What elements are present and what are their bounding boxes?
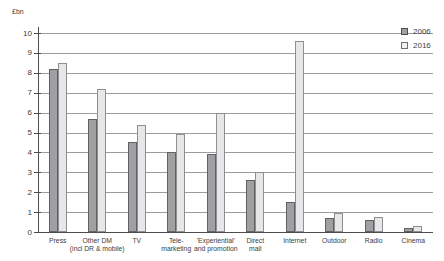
legend-row-2006: 2006 bbox=[401, 24, 431, 38]
bar-internet-2016 bbox=[295, 41, 304, 232]
bar-radio-2006 bbox=[365, 220, 374, 232]
legend-row-2016: 2016 bbox=[401, 38, 431, 52]
bar-other-dm-2016 bbox=[97, 89, 106, 232]
y-tick-label-6: 6 bbox=[12, 108, 32, 117]
gridline-9 bbox=[38, 53, 433, 54]
x-axis-line bbox=[38, 232, 433, 233]
bar-tv-2016 bbox=[137, 125, 146, 232]
legend: 2006 2016 bbox=[401, 24, 431, 52]
bar-direct-2006 bbox=[246, 180, 255, 232]
y-tick-label-10: 10 bbox=[12, 29, 32, 38]
y-tick-label-0: 0 bbox=[12, 228, 32, 237]
bar-tele-2006 bbox=[167, 152, 176, 232]
bar-outdoor-2016 bbox=[334, 213, 343, 232]
bar-outdoor-2006 bbox=[325, 218, 334, 232]
y-tick-label-7: 7 bbox=[12, 88, 32, 97]
bar-other-dm-2006 bbox=[88, 119, 97, 232]
bar-radio-2016 bbox=[374, 217, 383, 232]
y-tick-label-2: 2 bbox=[12, 188, 32, 197]
legend-label-2006: 2006 bbox=[413, 27, 431, 36]
legend-swatch-2006 bbox=[401, 28, 408, 35]
bar-tv-2006 bbox=[128, 142, 137, 232]
y-axis-unit-label: £bn bbox=[12, 8, 24, 15]
gridline-10 bbox=[38, 33, 433, 34]
gridline-8 bbox=[38, 73, 433, 74]
bar-experiential-2016 bbox=[216, 113, 225, 232]
y-tick-label-3: 3 bbox=[12, 168, 32, 177]
bar-press-2006 bbox=[49, 69, 58, 232]
legend-swatch-2016 bbox=[401, 42, 408, 49]
y-tick-label-5: 5 bbox=[12, 128, 32, 137]
y-tick-label-9: 9 bbox=[12, 48, 32, 57]
bar-tele-2016 bbox=[176, 134, 185, 232]
bar-direct-2016 bbox=[255, 172, 264, 232]
y-tick-label-8: 8 bbox=[12, 68, 32, 77]
legend-label-2016: 2016 bbox=[413, 41, 431, 50]
bar-internet-2006 bbox=[286, 202, 295, 232]
y-tick-label-4: 4 bbox=[12, 148, 32, 157]
y-tick-label-1: 1 bbox=[12, 208, 32, 217]
bar-chart: £bn 012345678910 PressOther DM(incl DR &… bbox=[0, 0, 444, 261]
bar-press-2016 bbox=[58, 63, 67, 232]
bar-experiential-2006 bbox=[207, 154, 216, 232]
x-axis-label-cinema: Cinema bbox=[373, 237, 444, 245]
y-axis-line bbox=[38, 27, 39, 232]
